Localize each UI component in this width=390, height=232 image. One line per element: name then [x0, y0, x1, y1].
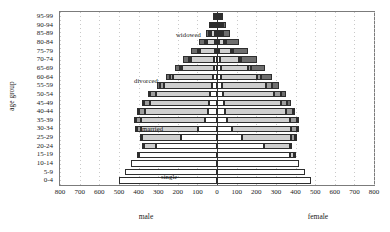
segment-married [142, 134, 180, 140]
bar-row [60, 74, 374, 80]
segment-single [217, 177, 311, 183]
male-bar-80-84 [199, 39, 217, 45]
y-tick-15-19: 15-19 [37, 150, 53, 158]
annotation-single: single [161, 173, 177, 180]
y-tick-85-89: 85-89 [37, 29, 53, 37]
y-tick-55-59: 55-59 [37, 81, 53, 89]
female-bar-20-24 [217, 143, 292, 149]
segment-single [139, 152, 218, 158]
female-bar-60-64 [217, 74, 272, 80]
segment-widowed [226, 39, 238, 45]
segment-married [242, 134, 291, 140]
female-bar-90-94 [217, 22, 226, 28]
bar-row [60, 134, 374, 140]
segment-married [144, 143, 156, 149]
bar-rows [60, 12, 374, 185]
segment-single [217, 100, 224, 106]
segment-single [181, 134, 217, 140]
segment-married [225, 108, 285, 114]
segment-widowed [297, 126, 299, 132]
male-bar-70-74 [183, 56, 217, 62]
segment-single [131, 160, 217, 166]
segment-divorced [286, 108, 293, 114]
segment-single [217, 160, 299, 166]
segment-widowed [261, 74, 272, 80]
segment-married [164, 82, 211, 88]
male-bar-15-19 [137, 152, 218, 158]
segment-single [217, 143, 264, 149]
segment-single [198, 126, 217, 132]
male-bar-40-44 [137, 108, 217, 114]
segment-widowed [297, 117, 299, 123]
male-bar-55-59 [157, 82, 217, 88]
segment-married [145, 108, 208, 114]
female-bar-50-54 [217, 91, 286, 97]
y-tick-40-44: 40-44 [37, 107, 53, 115]
y-tick-70-74: 70-74 [37, 55, 53, 63]
female-bar-10-14 [217, 160, 299, 166]
female-bar-25-29 [217, 134, 297, 140]
y-tick-35-39: 35-39 [37, 116, 53, 124]
female-bar-80-84 [217, 39, 239, 45]
y-tick-0-4: 0-4 [44, 176, 53, 184]
bar-row [60, 126, 374, 132]
y-tick-45-49: 45-49 [37, 99, 53, 107]
segment-married [200, 48, 215, 54]
male-bar-50-54 [148, 91, 217, 97]
segment-married [220, 56, 239, 62]
female-bar-5-9 [217, 169, 305, 175]
bar-row [60, 100, 374, 106]
segment-single [208, 108, 217, 114]
female-bar-75-79 [217, 48, 248, 54]
segment-single [217, 108, 225, 114]
bar-row [60, 152, 374, 158]
segment-divorced [290, 143, 292, 149]
female-bar-45-49 [217, 100, 291, 106]
bar-row [60, 13, 374, 19]
female-bar-15-19 [217, 152, 296, 158]
segment-divorced [294, 152, 296, 158]
y-tick-95-99: 95-99 [37, 12, 53, 20]
y-tick-65-69: 65-69 [37, 64, 53, 72]
annotation-married: married [142, 125, 163, 132]
segment-widowed [295, 134, 297, 140]
bar-row [60, 143, 374, 149]
female-bar-85-89 [217, 30, 230, 36]
bar-row [60, 65, 374, 71]
segment-widowed [241, 56, 257, 62]
bar-row [60, 108, 374, 114]
bar-row [60, 82, 374, 88]
segment-married [224, 100, 281, 106]
segment-single [217, 126, 232, 132]
segment-married [191, 56, 214, 62]
y-tick-5-9: 5-9 [44, 168, 53, 176]
y-tick-10-14: 10-14 [37, 159, 53, 167]
y-tick-60-64: 60-64 [37, 73, 53, 81]
x-tick-16: 800 [361, 188, 387, 196]
male-bar-35-39 [134, 117, 217, 123]
male-bar-85-89 [206, 30, 217, 36]
y-axis-tick-labels: 0-45-910-1415-1920-2425-2930-3435-3940-4… [0, 11, 56, 186]
female-bar-0-4 [217, 177, 311, 183]
bar-row [60, 177, 374, 183]
y-tick-75-79: 75-79 [37, 47, 53, 55]
segment-divorced [290, 117, 297, 123]
segment-married [182, 65, 213, 71]
female-bar-30-34 [217, 126, 299, 132]
y-tick-20-24: 20-24 [37, 142, 53, 150]
segment-married [221, 74, 257, 80]
male-bar-25-29 [140, 134, 218, 140]
y-tick-90-94: 90-94 [37, 21, 53, 29]
female-bar-95-99 [217, 13, 223, 19]
segment-widowed [223, 22, 226, 28]
annotation-widowed: widowed [176, 31, 201, 38]
segment-married [223, 91, 274, 97]
bar-row [60, 169, 374, 175]
male-bar-75-79 [191, 48, 217, 54]
y-tick-50-54: 50-54 [37, 90, 53, 98]
bar-row [60, 117, 374, 123]
x-axis-tick-labels: 8007006005004003002001000100200300400500… [0, 188, 390, 200]
segment-widowed [221, 13, 223, 19]
population-pyramid-chart: age group widoweddivorcedmarriedsingle 0… [0, 0, 390, 232]
annotation-divorced: divorced [134, 77, 158, 84]
